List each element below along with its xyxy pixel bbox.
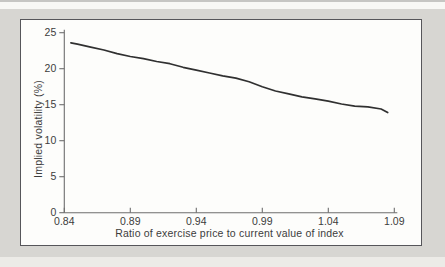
chart-canvas: 0.840.890.940.991.041.090510152025 — [21, 20, 421, 245]
x-tick-label: 1.09 — [384, 215, 405, 227]
x-tick-label: 0.99 — [252, 215, 273, 227]
y-tick-label: 0 — [50, 206, 56, 218]
y-tick-label: 5 — [50, 170, 56, 182]
y-axis-title: Implied volatility (%) — [32, 69, 44, 189]
page-top-strip — [0, 2, 445, 9]
chart-panel: 0.840.890.940.991.041.090510152025 Ratio… — [20, 19, 422, 246]
x-tick-label: 0.84 — [54, 215, 75, 227]
x-tick-label: 1.04 — [318, 215, 339, 227]
x-tick-label: 0.94 — [186, 215, 207, 227]
x-tick-label: 0.89 — [120, 215, 141, 227]
page-bottom-strip — [0, 257, 445, 267]
page-background: 0.840.890.940.991.041.090510152025 Ratio… — [0, 0, 445, 267]
y-tick-label: 20 — [45, 62, 57, 74]
implied-volatility-curve — [71, 43, 388, 113]
y-tick-label: 25 — [45, 26, 57, 38]
y-tick-label: 10 — [45, 134, 57, 146]
y-tick-label: 15 — [45, 98, 57, 110]
x-axis-title: Ratio of exercise price to current value… — [64, 227, 395, 239]
